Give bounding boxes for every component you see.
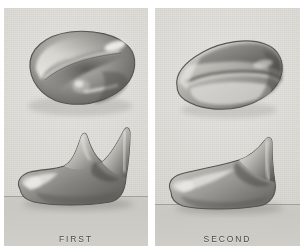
specimen-second-occlusal — [167, 30, 291, 120]
panel-label-first: FIRST — [4, 234, 148, 244]
lingual-lobe-highlight — [190, 82, 271, 105]
specimen-first-lateral — [12, 126, 144, 212]
specimen-first-occlusal — [14, 22, 140, 118]
mesial-heel-highlight — [172, 180, 194, 192]
specimen-second-lateral — [165, 136, 295, 218]
panel-label-second: SECOND — [155, 234, 300, 244]
heel-highlight — [22, 176, 42, 188]
figure-plate: FIRST — [0, 0, 304, 252]
lingual-cusp-highlight — [75, 81, 84, 88]
panel-first: FIRST — [4, 8, 148, 246]
panel-second: SECOND — [155, 8, 300, 246]
